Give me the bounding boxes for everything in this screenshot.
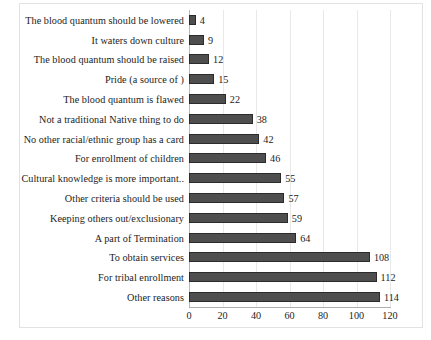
category-label: The blood quantum is flawed bbox=[63, 94, 184, 105]
x-tick-label-80: 80 bbox=[318, 310, 328, 321]
bar bbox=[189, 114, 253, 124]
bar-row: Keeping others out/exclusionary59 bbox=[0, 208, 431, 228]
bar-value-label: 38 bbox=[257, 113, 267, 124]
category-label: Cultural knowledge is more important.. bbox=[21, 173, 184, 184]
bar bbox=[189, 213, 288, 223]
category-label: To obtain services bbox=[109, 252, 184, 263]
bar bbox=[189, 193, 284, 203]
category-label: A part of Termination bbox=[95, 232, 184, 243]
category-label: Not a traditional Native thing to do bbox=[39, 113, 184, 124]
x-tick-label-20: 20 bbox=[217, 310, 227, 321]
x-tick-label-120: 120 bbox=[382, 310, 397, 321]
bar-row: Not a traditional Native thing to do38 bbox=[0, 109, 431, 129]
bar-row: The blood quantum should be raised12 bbox=[0, 50, 431, 70]
bar-row: The blood quantum should be lowered4 bbox=[0, 10, 431, 30]
x-axis-tick-labels: 020406080100120 bbox=[0, 310, 431, 328]
bar-rows: The blood quantum should be lowered4It w… bbox=[0, 0, 431, 308]
bar-value-label: 15 bbox=[218, 74, 228, 85]
category-label: For enrollment of children bbox=[75, 153, 184, 164]
bar-row: It waters down culture9 bbox=[0, 30, 431, 50]
bar-row: Other criteria should be used57 bbox=[0, 188, 431, 208]
bar-value-label: 22 bbox=[230, 94, 240, 105]
bar bbox=[189, 233, 296, 243]
bar-value-label: 12 bbox=[213, 54, 223, 65]
bar-value-label: 57 bbox=[288, 193, 298, 204]
category-label: The blood quantum should be raised bbox=[34, 54, 184, 65]
bar-value-label: 64 bbox=[300, 232, 310, 243]
bar-value-label: 114 bbox=[384, 292, 399, 303]
bar bbox=[189, 252, 370, 262]
bar bbox=[189, 153, 266, 163]
bar-row: For tribal enrollment112 bbox=[0, 267, 431, 287]
bar bbox=[189, 173, 281, 183]
bar bbox=[189, 94, 226, 104]
bar-row: A part of Termination64 bbox=[0, 228, 431, 248]
bar-row: To obtain services108 bbox=[0, 248, 431, 268]
x-tick-label-60: 60 bbox=[284, 310, 294, 321]
bar bbox=[189, 35, 204, 45]
category-label: Other criteria should be used bbox=[65, 193, 184, 204]
bar bbox=[189, 272, 377, 282]
bar-row: Cultural knowledge is more important..55 bbox=[0, 168, 431, 188]
bar-value-label: 55 bbox=[285, 173, 295, 184]
category-label: Other reasons bbox=[127, 292, 184, 303]
bar-row: No other racial/ethnic group has a card4… bbox=[0, 129, 431, 149]
bar bbox=[189, 15, 196, 25]
category-label: The blood quantum should be lowered bbox=[25, 14, 184, 25]
category-label: For tribal enrollment bbox=[98, 272, 184, 283]
bar-value-label: 112 bbox=[381, 272, 396, 283]
bar-value-label: 46 bbox=[270, 153, 280, 164]
bar-chart-figure: The blood quantum should be lowered4It w… bbox=[0, 0, 431, 340]
bar-value-label: 59 bbox=[292, 212, 302, 223]
x-tick-label-100: 100 bbox=[349, 310, 364, 321]
bar bbox=[189, 74, 214, 84]
bar-value-label: 9 bbox=[208, 34, 213, 45]
bar bbox=[189, 54, 209, 64]
bar-value-label: 108 bbox=[374, 252, 389, 263]
category-label: It waters down culture bbox=[92, 34, 184, 45]
bar-row: The blood quantum is flawed22 bbox=[0, 89, 431, 109]
x-tick-label-0: 0 bbox=[186, 310, 191, 321]
bar-value-label: 42 bbox=[263, 133, 273, 144]
bar bbox=[189, 292, 380, 302]
bar-row: Other reasons114 bbox=[0, 287, 431, 307]
category-label: Keeping others out/exclusionary bbox=[50, 212, 184, 223]
category-label: No other racial/ethnic group has a card bbox=[24, 133, 184, 144]
bar bbox=[189, 134, 259, 144]
bar-row: For enrollment of children46 bbox=[0, 149, 431, 169]
bar-row: Pride (a source of )15 bbox=[0, 69, 431, 89]
category-label: Pride (a source of ) bbox=[105, 74, 184, 85]
x-tick-label-40: 40 bbox=[251, 310, 261, 321]
bar-value-label: 4 bbox=[200, 14, 205, 25]
